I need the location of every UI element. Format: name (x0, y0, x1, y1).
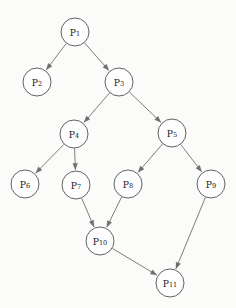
edge-p8-to-p10 (107, 197, 122, 227)
edge-p5-to-p9 (181, 145, 202, 172)
edge-p10-to-p11 (112, 248, 156, 275)
node-p4[interactable]: P4 (60, 120, 88, 148)
node-p7[interactable]: P7 (62, 171, 90, 199)
node-p6[interactable]: P6 (11, 170, 39, 198)
diagram-canvas: P1P2P3P4P5P6P7P8P9P10P11 (0, 0, 236, 308)
node-p8[interactable]: P8 (114, 170, 142, 198)
edge-p5-to-p8 (138, 144, 162, 172)
arrow-head-icon (176, 262, 181, 269)
edge-line (112, 248, 156, 275)
edge-p1-to-p3 (85, 43, 109, 70)
node-p5[interactable]: P5 (158, 119, 186, 147)
directed-graph: P1P2P3P4P5P6P7P8P9P10P11 (0, 0, 236, 308)
edge-p3-to-p5 (129, 92, 160, 122)
node-p9[interactable]: P9 (197, 170, 225, 198)
edge-p9-to-p11 (176, 197, 206, 268)
edge-p3-to-p4 (84, 93, 109, 122)
node-p11[interactable]: P11 (156, 269, 184, 297)
arrow-head-icon (150, 270, 157, 275)
arrow-head-icon (46, 63, 52, 69)
edge-p1-to-p2 (46, 44, 66, 70)
edge-p4-to-p6 (36, 144, 64, 173)
edge-p4-to-p7 (73, 148, 78, 169)
node-p10[interactable]: P10 (86, 227, 114, 255)
edge-line (176, 197, 206, 268)
edge-line (129, 92, 160, 122)
arrow-head-icon (196, 165, 202, 171)
arrow-head-icon (73, 163, 78, 169)
node-p1[interactable]: P1 (61, 18, 89, 46)
nodes-layer: P1P2P3P4P5P6P7P8P9P10P11 (11, 18, 225, 297)
node-p2[interactable]: P2 (23, 68, 51, 96)
arrow-head-icon (107, 220, 112, 227)
arrow-head-icon (89, 220, 94, 227)
edge-p7-to-p10 (82, 198, 94, 226)
node-p3[interactable]: P3 (105, 68, 133, 96)
